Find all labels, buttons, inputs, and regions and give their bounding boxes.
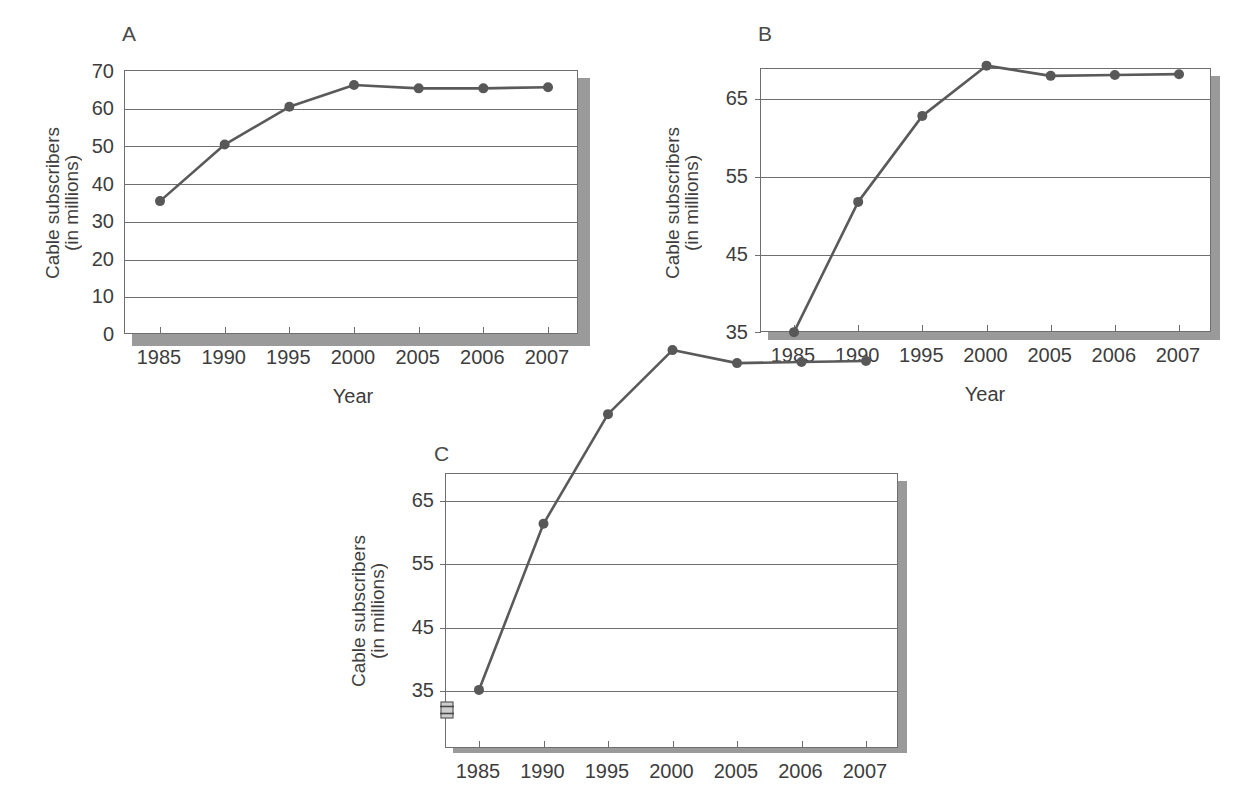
y-tick-label: 55 xyxy=(700,165,748,188)
data-series-a xyxy=(125,71,579,335)
panel-letter-b: B xyxy=(758,22,773,46)
x-tick-label: 2006 xyxy=(778,760,823,783)
data-series-b xyxy=(761,69,1212,333)
x-tick-label: 2000 xyxy=(331,346,376,369)
chart-panel-a: A Cable subscribers (in millions) 70 60 … xyxy=(0,0,620,420)
x-tick-label: 2006 xyxy=(1092,344,1137,367)
plot-area-c xyxy=(445,473,898,748)
y-axis-title-b: Cable subscribers (in millions) xyxy=(656,72,708,334)
panel-letter-a: A xyxy=(122,22,137,46)
x-axis-title-b: Year xyxy=(965,383,1005,406)
y-axis-title-line-1: Cable subscribers xyxy=(663,127,682,279)
y-tick-label: 30 xyxy=(66,210,114,233)
x-tick-label: 1995 xyxy=(266,346,311,369)
y-tick-label: 20 xyxy=(66,248,114,271)
y-tick-label: 0 xyxy=(66,323,114,346)
y-tick-label: 40 xyxy=(66,173,114,196)
y-axis-title-line-2: (in millions) xyxy=(368,563,387,659)
y-tick-label: 35 xyxy=(700,321,748,344)
plot-area-a xyxy=(124,70,578,334)
x-tick-label: 2007 xyxy=(525,346,570,369)
y-tick-label: 50 xyxy=(66,135,114,158)
x-tick-label: 1995 xyxy=(899,344,944,367)
y-tick-label: 10 xyxy=(66,285,114,308)
x-tick-label: 2000 xyxy=(649,760,694,783)
y-tick-label: 70 xyxy=(66,60,114,83)
y-axis-title-line-2: (in millions) xyxy=(62,155,81,251)
y-tick-label: 55 xyxy=(386,552,434,575)
x-axis-title-a: Year xyxy=(333,385,373,408)
x-tick-label: 2005 xyxy=(1027,344,1072,367)
x-tick-label: 1990 xyxy=(201,346,246,369)
x-tick-label: 2000 xyxy=(963,344,1008,367)
x-tick-label: 1990 xyxy=(520,760,565,783)
x-tick-label: 2007 xyxy=(1156,344,1201,367)
x-tick-label: 1985 xyxy=(137,346,182,369)
x-tick-label: 2007 xyxy=(843,760,888,783)
y-tick-label: 65 xyxy=(386,489,434,512)
y-axis-title-line-1: Cable subscribers xyxy=(43,127,62,279)
y-axis-title-line-1: Cable subscribers xyxy=(349,535,368,687)
y-axis-title-c: Cable subscribers (in millions) xyxy=(342,480,394,742)
y-tick-label: 45 xyxy=(386,616,434,639)
x-tick-label: 1995 xyxy=(585,760,630,783)
y-tick-label: 60 xyxy=(66,97,114,120)
x-tick-label: 2006 xyxy=(460,346,505,369)
chart-panel-b: B Cable subscribers (in millions) 65 55 … xyxy=(640,0,1249,420)
y-tick-label: 45 xyxy=(700,243,748,266)
plot-area-b xyxy=(760,68,1211,332)
chart-panel-c: C Cable subscribers (in millions) 65 55 … xyxy=(330,420,950,811)
panel-letter-c: C xyxy=(434,442,450,466)
y-tick-label: 35 xyxy=(386,679,434,702)
x-tick-label: 1990 xyxy=(835,344,880,367)
x-tick-label: 1985 xyxy=(456,760,501,783)
y-axis-break-symbol xyxy=(437,698,457,724)
data-series-c xyxy=(446,474,899,749)
y-tick-label: 65 xyxy=(700,87,748,110)
y-axis-title-line-2: (in millions) xyxy=(682,155,701,251)
x-tick-label: 2005 xyxy=(395,346,440,369)
x-tick-label: 2005 xyxy=(714,760,759,783)
